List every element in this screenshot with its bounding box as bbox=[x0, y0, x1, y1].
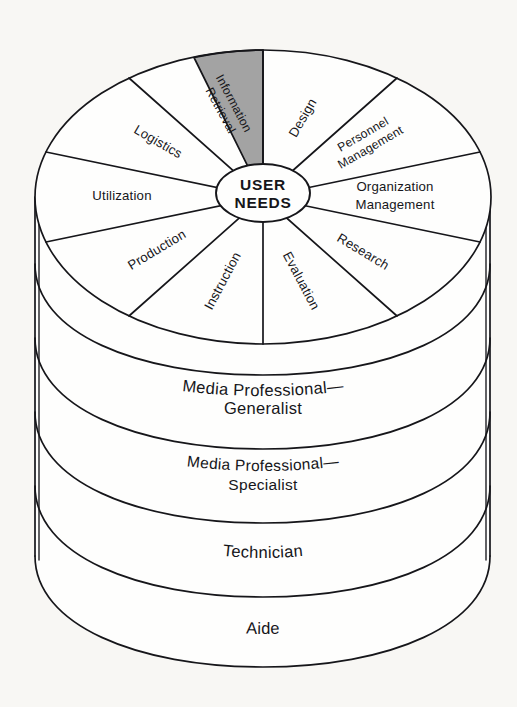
wheel-label-utilization[interactable]: Utilization bbox=[92, 188, 151, 203]
user-needs-cylinder-diagram: Media Professional— Generalist Media Pro… bbox=[0, 0, 517, 707]
band-label-technician: Technician bbox=[222, 541, 303, 561]
band-label-generalist-line2: Generalist bbox=[224, 399, 302, 417]
band-label-aide: Aide bbox=[246, 619, 280, 638]
wheel-label-utilization-text: Utilization bbox=[92, 188, 151, 203]
wheel-label-organization-management-line2: Management bbox=[356, 197, 435, 212]
diagram-canvas: Media Professional— Generalist Media Pro… bbox=[0, 0, 517, 707]
band-label-specialist-line2: Specialist bbox=[228, 476, 298, 493]
wheel-label-organization-management-line1: Organization bbox=[356, 179, 433, 194]
hub-label-line1: USER bbox=[240, 176, 286, 193]
hub-label-line2: NEEDS bbox=[235, 194, 292, 211]
wheel-top-face: Information Retrieval Design Personnel M… bbox=[35, 50, 491, 344]
hub-ellipse bbox=[216, 164, 310, 222]
hub-user-needs[interactable]: USER NEEDS bbox=[216, 164, 310, 222]
